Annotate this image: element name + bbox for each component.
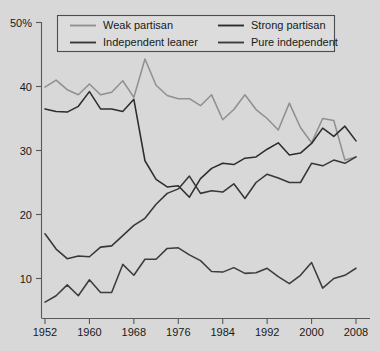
legend-label-1: Strong partisan xyxy=(251,19,326,31)
chart-root: 50%40302010 1952196019681976198419922000… xyxy=(0,0,380,351)
x-tick-group: 19521960196819761984199220002008 xyxy=(33,319,368,339)
legend: Weak partisanStrong partisanIndependent … xyxy=(58,16,338,52)
x-tick-label-7: 2008 xyxy=(344,326,368,338)
x-tick-label-4: 1984 xyxy=(210,326,234,338)
y-tick-group: 50%40302010 xyxy=(10,17,42,285)
series-line-independent-leaner xyxy=(45,157,356,259)
x-tick-label-0: 1952 xyxy=(33,326,57,338)
legend-label-0: Weak partisan xyxy=(103,19,173,31)
x-tick-label-3: 1976 xyxy=(166,326,190,338)
y-tick-label-2: 30 xyxy=(20,145,32,157)
x-axis: 19521960196819761984199220002008 xyxy=(33,319,370,339)
y-tick-label-4: 10 xyxy=(20,273,32,285)
series-line-pure-independent xyxy=(45,248,356,302)
series-line-strong-partisan xyxy=(45,92,356,198)
x-tick-label-6: 2000 xyxy=(299,326,323,338)
series-group xyxy=(45,59,356,302)
legend-label-2: Independent leaner xyxy=(103,36,198,48)
y-tick-label-0: 50% xyxy=(10,17,32,29)
y-tick-label-1: 40 xyxy=(20,81,32,93)
x-tick-label-2: 1968 xyxy=(122,326,146,338)
x-tick-label-1: 1960 xyxy=(77,326,101,338)
legend-label-3: Pure independent xyxy=(251,36,338,48)
x-tick-label-5: 1992 xyxy=(255,326,279,338)
line-chart: 50%40302010 1952196019681976198419922000… xyxy=(0,0,380,351)
y-tick-label-3: 20 xyxy=(20,209,32,221)
y-axis: 50%40302010 xyxy=(10,17,42,319)
